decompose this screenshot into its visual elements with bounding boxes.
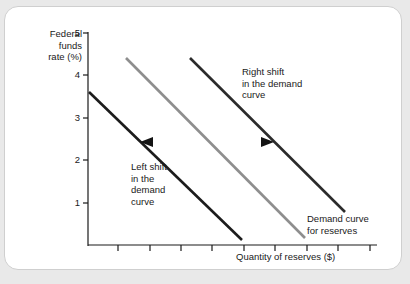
y-tick-label-2: 2	[66, 154, 80, 165]
y-axis-title-line2: funds	[59, 40, 82, 51]
left-shift-annotation-line3: demand	[131, 184, 165, 195]
left-shift-annotation: Left shiftin thedemandcurve	[131, 161, 167, 207]
right-shift-annotation-line2: in the demand	[242, 78, 302, 89]
y-axis-ticks	[83, 33, 88, 203]
y-tick-label-5: 5	[66, 27, 80, 38]
demand-curve-annotation: Demand curvefor reserves	[307, 213, 369, 236]
y-tick-label-4: 4	[66, 69, 80, 80]
demand-curve-annotation-line2: for reserves	[307, 225, 357, 236]
left-shift-annotation-line2: in the	[131, 173, 154, 184]
figure-container: Federalfundsrate (%) Quantity of reserve…	[0, 0, 410, 284]
y-tick-label-1: 1	[66, 197, 80, 208]
left-shift-annotation-line1: Left shift	[131, 161, 167, 172]
x-axis-title: Quantity of reserves ($)	[236, 251, 335, 263]
right-shift-annotation-line3: curve	[242, 89, 265, 100]
right-shift-annotation: Right shiftin the demandcurve	[242, 66, 302, 101]
left-shift-annotation-line4: curve	[131, 196, 154, 207]
demand-curve-annotation-line1: Demand curve	[307, 213, 369, 224]
y-axis-title-line3: rate (%)	[48, 51, 82, 62]
right-shift-arrow	[183, 137, 274, 147]
right-shift-annotation-line1: Right shift	[242, 66, 284, 77]
y-tick-label-3: 3	[66, 112, 80, 123]
